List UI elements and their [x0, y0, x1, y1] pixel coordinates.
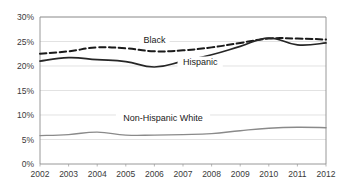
series-label-non-hispanic-white: Non-Hispanic White: [123, 113, 203, 123]
y-axis-tick-label: 10%: [17, 110, 34, 120]
chart-container: 0%5%10%15%20%25%30%200220032004200520062…: [0, 0, 337, 191]
x-axis-tick-label: 2003: [59, 169, 78, 179]
series-line-non-hispanic-white: [40, 127, 326, 135]
series-label-hispanic: Hispanic: [183, 57, 218, 67]
x-axis-tick-label: 2007: [174, 169, 193, 179]
x-axis-tick-label: 2008: [202, 169, 221, 179]
y-axis-tick-label: 5%: [22, 135, 35, 145]
y-axis-tick-label: 15%: [17, 86, 34, 96]
x-axis-tick-label: 2010: [259, 169, 278, 179]
series-label-black: Black: [143, 35, 166, 45]
line-chart: 0%5%10%15%20%25%30%200220032004200520062…: [0, 0, 337, 191]
x-axis-tick-label: 2005: [116, 169, 135, 179]
x-axis-tick-label: 2012: [317, 169, 336, 179]
x-axis-tick-label: 2011: [288, 169, 307, 179]
x-axis-tick-label: 2004: [88, 169, 107, 179]
x-axis-tick-label: 2006: [145, 169, 164, 179]
y-axis-tick-label: 30%: [17, 12, 34, 22]
y-axis-tick-label: 20%: [17, 61, 34, 71]
x-axis-tick-label: 2009: [231, 169, 250, 179]
y-axis-tick-label: 25%: [17, 37, 34, 47]
x-axis-tick-label: 2002: [31, 169, 50, 179]
